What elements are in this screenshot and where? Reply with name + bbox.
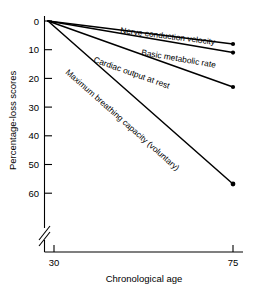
y-axis-break-slash-1 — [39, 226, 50, 240]
series-endpoint-cardiac-output-at-rest — [231, 85, 235, 89]
y-axis: 0 10 20 30 40 50 60 Percentage-loss scor… — [7, 16, 52, 253]
y-tick-label-10: 10 — [28, 44, 39, 55]
chart-canvas: 0 10 20 30 40 50 60 Percentage-loss scor… — [0, 0, 265, 287]
y-tick-label-30: 30 — [28, 102, 39, 113]
y-tick-label-0: 0 — [34, 16, 39, 27]
chart-figure: 0 10 20 30 40 50 60 Percentage-loss scor… — [0, 0, 265, 287]
y-tick-label-40: 40 — [28, 130, 39, 141]
x-axis: 30 75 Chronological age — [45, 245, 244, 284]
y-axis-title: Percentage-loss scores — [7, 70, 18, 170]
series-endpoint-nerve-conduction-velocity — [231, 42, 235, 46]
series-endpoint-maximum-breathing-capacity — [231, 182, 236, 187]
y-tick-label-50: 50 — [28, 159, 39, 170]
series-nerve-conduction-velocity: Nerve conduction velocity — [48, 21, 235, 47]
y-tick-label-60: 60 — [28, 188, 39, 199]
y-tick-label-20: 20 — [28, 73, 39, 84]
x-tick-label-75: 75 — [228, 257, 239, 268]
x-axis-title: Chronological age — [106, 273, 183, 284]
x-tick-label-30: 30 — [49, 257, 60, 268]
series-endpoint-basic-metabolic-rate — [231, 51, 235, 55]
